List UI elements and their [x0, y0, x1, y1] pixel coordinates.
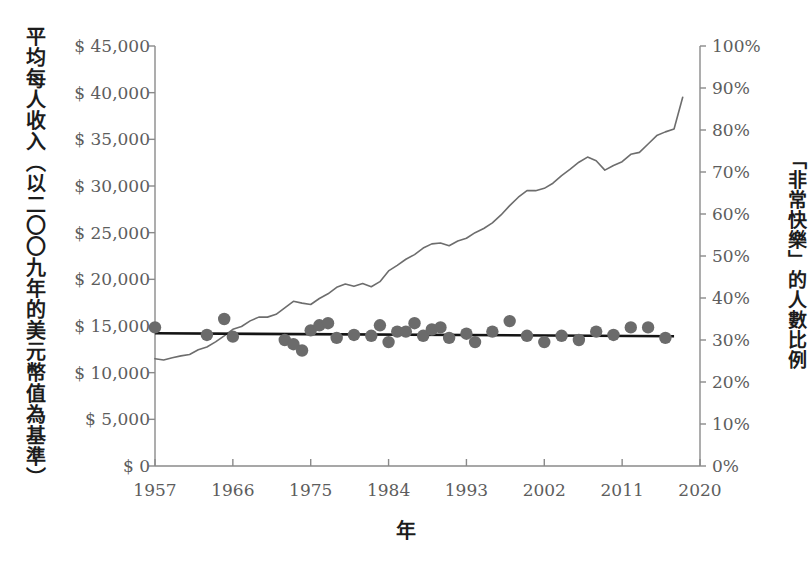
x-tick-label: 2002 — [523, 480, 566, 500]
x-tick-label: 1957 — [133, 480, 176, 500]
x-tick-label: 2011 — [601, 480, 644, 500]
x-tick-label: 1984 — [367, 480, 410, 500]
x-tick-label: 1966 — [211, 480, 254, 500]
chart-figure: 平均每人收入（以二〇〇九年的美元幣值為基準） 「非常快樂」的人數比例 $ 45,… — [0, 0, 811, 565]
x-tick-label: 1993 — [445, 480, 488, 500]
x-tick-label: 1975 — [289, 480, 332, 500]
x-axis-title: 年 — [0, 515, 811, 544]
x-axis-ticks: 19571966197519841993200220112020 — [0, 0, 811, 565]
x-tick-label: 2020 — [678, 480, 721, 500]
